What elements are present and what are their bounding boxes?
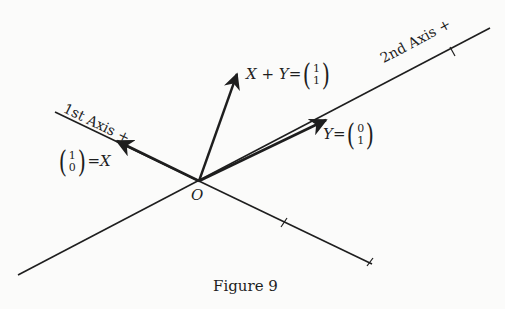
vector-x-label: (10)=X [57, 147, 111, 177]
vector-y-label: Y=(01) [323, 120, 376, 150]
figure-caption: Figure 9 [213, 277, 278, 295]
vector-sum-label: X + Y=(11) [246, 60, 332, 90]
vector-x-arrow [117, 141, 199, 181]
origin-label: O [191, 186, 203, 204]
figure-9-diagram: 1st Axis + 2nd Axis + (10)=X X + Y=(11) … [0, 0, 505, 309]
